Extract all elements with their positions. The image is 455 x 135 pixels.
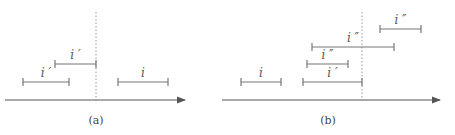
interval: i ″ xyxy=(380,13,421,33)
panel-a: i ′i ′i(a) xyxy=(5,12,185,127)
interval-label: i ′ xyxy=(327,66,338,80)
interval-label: i ′ xyxy=(70,48,81,62)
interval-label: i xyxy=(141,66,145,80)
interval: i xyxy=(118,66,168,86)
interval-label: i ″ xyxy=(321,48,334,62)
interval: i ′ xyxy=(23,66,69,86)
interval: i xyxy=(241,66,281,86)
panel-caption: (a) xyxy=(88,114,103,127)
interval-diagram: i ′i ′i(a)ii ′i ″i ″i ″(b) xyxy=(0,0,455,135)
interval: i ′ xyxy=(303,66,362,86)
interval-label: i ″ xyxy=(394,13,407,27)
interval: i ′ xyxy=(55,48,96,68)
panel-caption: (b) xyxy=(320,114,336,127)
interval: i ″ xyxy=(307,48,348,68)
interval-label: i ″ xyxy=(347,31,360,45)
panel-b: ii ′i ″i ″i ″(b) xyxy=(222,12,440,127)
interval-label: i ′ xyxy=(41,66,52,80)
interval-label: i xyxy=(259,66,263,80)
